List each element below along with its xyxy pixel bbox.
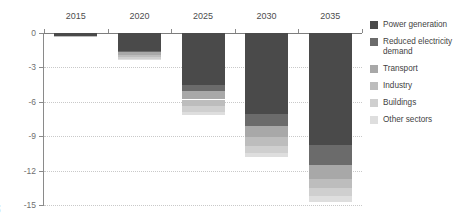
legend: Power generationReduced electricity dema… xyxy=(370,20,460,132)
bar-segment-industry xyxy=(309,179,352,189)
bar-segment-other-sectors xyxy=(182,112,225,115)
bar-stack-2030 xyxy=(245,33,288,205)
legend-item-reduced-electricity-demand[interactable]: Reduced electricity demand xyxy=(370,37,460,57)
bar-segment-buildings xyxy=(245,146,288,153)
emissions-reduction-chart: 0-3-6-9-12-15 Gt 20152020202520302035 Po… xyxy=(0,0,461,218)
x-tick-mark xyxy=(235,29,236,33)
bar-segment-industry xyxy=(54,36,97,37)
plot-area xyxy=(44,33,362,205)
x-axis-year-label: 2035 xyxy=(320,11,340,21)
bar-stack-2020 xyxy=(118,33,161,205)
legend-swatch-icon xyxy=(370,65,378,73)
y-axis-unit-label: Gt xyxy=(0,205,2,214)
x-tick-mark xyxy=(108,29,109,33)
legend-item-other-sectors[interactable]: Other sectors xyxy=(370,115,460,125)
y-tick-label: -12 xyxy=(8,166,36,176)
legend-item-label: Other sectors xyxy=(383,115,432,125)
y-tick-label: -6 xyxy=(8,97,36,107)
bar-segment-reduced-electricity-demand xyxy=(309,145,352,164)
gridline--15 xyxy=(44,205,362,206)
legend-item-buildings[interactable]: Buildings xyxy=(370,98,460,108)
legend-item-label: Industry xyxy=(383,81,412,91)
bar-segment-industry xyxy=(182,100,225,107)
bar-segment-power-generation xyxy=(245,33,288,114)
bar-segment-other-sectors xyxy=(118,59,161,60)
y-tick-label: -9 xyxy=(8,131,36,141)
bar-segment-transport xyxy=(309,165,352,179)
x-axis-year-label: 2025 xyxy=(193,11,213,21)
x-axis-year-label: 2015 xyxy=(66,11,86,21)
legend-item-label: Reduced electricity demand xyxy=(383,37,460,57)
x-tick-mark xyxy=(171,29,172,33)
bar-stack-2025 xyxy=(182,33,225,205)
bar-stack-2035 xyxy=(309,33,352,205)
legend-item-label: Power generation xyxy=(383,20,447,30)
legend-item-power-generation[interactable]: Power generation xyxy=(370,20,460,30)
bar-segment-transport xyxy=(182,91,225,99)
bar-segment-transport xyxy=(245,126,288,137)
x-tick-mark xyxy=(298,29,299,33)
legend-swatch-icon xyxy=(370,38,378,46)
bar-segment-power-generation xyxy=(182,33,225,85)
x-tick-mark xyxy=(44,29,45,33)
bar-segment-power-generation xyxy=(118,33,161,51)
legend-item-label: Buildings xyxy=(383,98,416,108)
legend-item-label: Transport xyxy=(383,64,418,74)
legend-swatch-icon xyxy=(370,21,378,29)
bar-segment-industry xyxy=(245,137,288,146)
bar-segment-power-generation xyxy=(309,33,352,145)
y-tick-label: -3 xyxy=(8,62,36,72)
legend-swatch-icon xyxy=(370,99,378,107)
x-tick-mark xyxy=(362,29,363,33)
y-tick-label: 0 xyxy=(8,28,36,38)
bar-stack-2015 xyxy=(54,33,97,205)
legend-item-transport[interactable]: Transport xyxy=(370,64,460,74)
legend-item-industry[interactable]: Industry xyxy=(370,81,460,91)
bar-segment-buildings xyxy=(309,188,352,196)
x-axis-year-label: 2020 xyxy=(129,11,149,21)
legend-swatch-icon xyxy=(370,116,378,124)
bar-segment-other-sectors xyxy=(309,196,352,201)
y-tick-label: -15 xyxy=(8,200,36,210)
x-axis-year-label: 2030 xyxy=(257,11,277,21)
bar-segment-other-sectors xyxy=(245,153,288,158)
legend-swatch-icon xyxy=(370,82,378,90)
bar-segment-reduced-electricity-demand xyxy=(245,114,288,127)
